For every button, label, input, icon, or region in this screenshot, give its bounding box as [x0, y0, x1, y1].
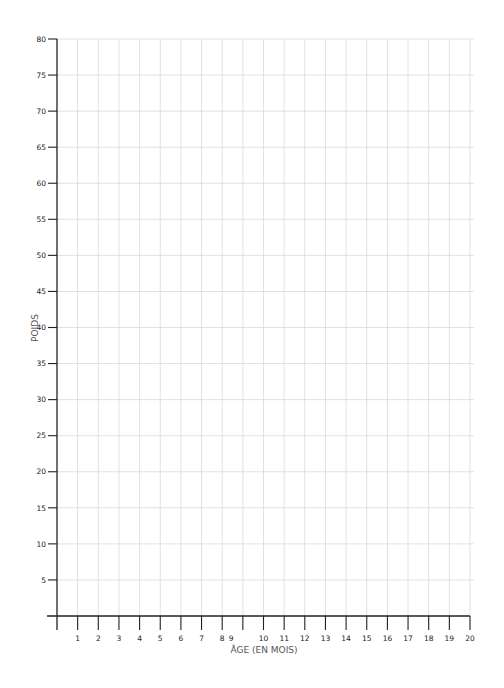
- y-tick-label: 25: [36, 431, 46, 440]
- grid-lines: [57, 39, 474, 616]
- x-tick-label: 14: [341, 634, 351, 643]
- y-tick-label: 10: [36, 540, 46, 549]
- y-tick-label: 75: [36, 71, 46, 80]
- y-axis-title: POIDS: [30, 314, 40, 342]
- x-axis-ticks: 1234567891011121314151617181920: [75, 616, 475, 643]
- y-tick-label: 80: [36, 35, 46, 44]
- y-tick-label: 55: [36, 215, 46, 224]
- y-tick-label: 35: [36, 359, 46, 368]
- x-tick-label: 17: [403, 634, 413, 643]
- x-tick-label: 12: [300, 634, 310, 643]
- x-tick-label: 13: [321, 634, 331, 643]
- x-tick-label: 19: [445, 634, 455, 643]
- y-tick-label: 65: [36, 143, 46, 152]
- x-tick-label: 6: [179, 634, 184, 643]
- x-tick-label: 3: [117, 634, 122, 643]
- x-tick-label: 2: [96, 634, 101, 643]
- x-tick-label: 8: [220, 634, 225, 643]
- x-tick-label: 18: [424, 634, 434, 643]
- y-tick-label: 20: [36, 467, 46, 476]
- x-tick-label: 1: [75, 634, 80, 643]
- y-tick-label: 50: [36, 251, 46, 260]
- x-tick-label: 4: [137, 634, 142, 643]
- y-tick-label: 5: [41, 576, 46, 585]
- x-tick-label: 10: [259, 634, 269, 643]
- y-tick-label: 30: [36, 395, 46, 404]
- x-tick-label: 5: [158, 634, 163, 643]
- y-tick-label: 15: [36, 504, 46, 513]
- y-tick-label: 45: [36, 287, 46, 296]
- x-tick-label: 20: [465, 634, 475, 643]
- x-tick-label: 11: [279, 634, 289, 643]
- axes: [47, 39, 470, 630]
- y-tick-label: 60: [36, 179, 46, 188]
- x-tick-label: 15: [362, 634, 372, 643]
- x-tick-label: 7: [199, 634, 204, 643]
- x-tick-label: 9: [229, 634, 234, 643]
- x-axis-title: ÂGE (EN MOIS): [230, 644, 297, 655]
- x-tick-label: 16: [383, 634, 393, 643]
- y-axis-ticks: 5101520253035404550556065707580: [36, 35, 57, 585]
- growth-chart: 5101520253035404550556065707580 12345678…: [0, 0, 504, 688]
- y-tick-label: 70: [36, 107, 46, 116]
